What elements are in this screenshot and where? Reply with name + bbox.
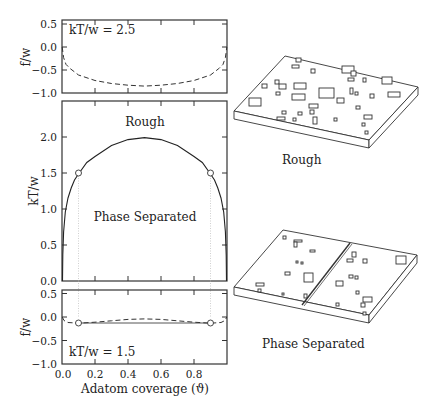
- bottom-ytick-3: −1.0: [32, 358, 58, 370]
- binodal-marker-right: [208, 170, 214, 176]
- middle-panel: 2.0 1.5 1.0 0.5 0.0 kT/w Rough Phase Sep…: [27, 101, 227, 317]
- top-ytick-3: −1.0: [32, 87, 58, 99]
- top-ylabel: f/w: [19, 47, 33, 66]
- top-ytick-0: 0.5: [40, 18, 57, 30]
- bottom-panel: 0.5 0.0 −0.5 −1.0 f/w kT/w = 1.5 0.0 0.2…: [19, 288, 227, 397]
- xtick-4: 0.8: [186, 368, 203, 380]
- bottom-ytick-1: 0.0: [40, 311, 57, 323]
- bottom-ytick-2: −0.5: [32, 335, 58, 347]
- phase-slab-top: [234, 230, 417, 315]
- figure: 0.5 0.0 −0.5 −1.0 f/w kT/w = 2.5 2.0 1.5…: [0, 0, 435, 408]
- bottom-ytick-0: 0.5: [40, 288, 57, 300]
- phase-separated-region-label: Phase Separated: [94, 210, 197, 224]
- middle-ylabel: kT/w: [27, 175, 41, 205]
- top-panel: 0.5 0.0 −0.5 −1.0 f/w kT/w = 2.5: [19, 18, 227, 99]
- middle-ytick-3: 0.5: [40, 239, 57, 251]
- bottom-ylabel: f/w: [19, 317, 33, 336]
- tangent-point-right: [208, 320, 214, 326]
- rough-surface-illustration: [234, 56, 418, 148]
- tangent-point-left: [76, 320, 82, 326]
- phase-separated-surface-caption: Phase Separated: [262, 337, 365, 351]
- xtick-3: 0.6: [153, 368, 170, 380]
- bottom-free-energy-curve: [62, 317, 227, 323]
- binodal-marker-left: [76, 170, 82, 176]
- middle-ytick-1: 1.5: [40, 167, 57, 179]
- xlabel: Adatom coverage (ϑ): [80, 382, 209, 396]
- middle-ytick-2: 1.0: [40, 203, 57, 215]
- middle-ytick-0: 2.0: [40, 131, 57, 143]
- top-ytick-2: −0.5: [32, 64, 58, 76]
- xtick-2: 0.4: [120, 368, 137, 380]
- rough-surface-caption: Rough: [282, 153, 321, 167]
- xtick-1: 0.2: [87, 368, 104, 380]
- top-annotation: kT/w = 2.5: [69, 23, 135, 37]
- rough-region-label: Rough: [125, 115, 165, 129]
- middle-ytick-4: 0.0: [40, 275, 57, 287]
- top-ytick-1: 0.0: [40, 41, 57, 53]
- bottom-annotation: kT/w = 1.5: [69, 345, 135, 359]
- xtick-0: 0.0: [55, 368, 72, 380]
- phase-separated-surface-illustration: [234, 230, 417, 323]
- top-free-energy-curve: [62, 47, 227, 86]
